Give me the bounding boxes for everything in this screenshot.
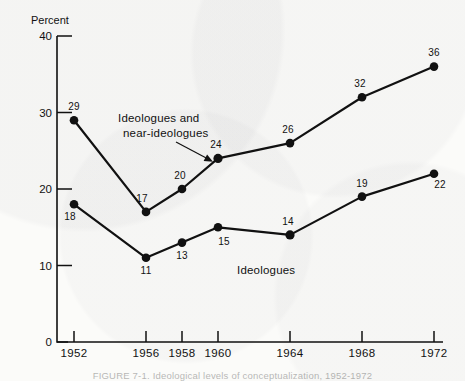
point-label: 32 [354,78,366,89]
point-label: 14 [282,216,294,227]
data-point [358,192,367,201]
point-label: 24 [210,139,222,150]
y-tick-label: 40 [39,30,52,42]
data-point [178,238,187,247]
point-label: 29 [68,101,80,112]
x-tick-label: 1952 [60,347,87,359]
data-point [178,185,187,194]
figure-caption: FIGURE 7-1. Ideological levels of concep… [0,370,465,381]
data-point [358,93,367,102]
y-tick-label: 30 [39,107,52,119]
x-axis-tick-labels: 1952 1956 1958 1960 1964 1968 1972 [60,347,447,359]
series-point-labels-ideologues: 18 11 13 15 14 19 22 [64,178,446,276]
annotation-label-near-ideologues-line1: Ideologues and [118,112,199,124]
data-point [285,230,294,239]
point-label: 11 [141,265,152,276]
x-tick-label: 1968 [348,347,375,359]
data-point [213,154,222,163]
y-axis-ticks [57,36,72,342]
series-points-ideologues-and-near-ideologues [70,62,439,216]
data-point [70,116,79,125]
annotation-label-near-ideologues-line2: near-ideologues [123,127,209,139]
data-point [214,223,223,232]
series-line-ideologues [74,174,434,258]
series-point-labels-ideologues-and-near-ideologues: 29 17 20 24 26 32 36 [68,47,440,204]
data-point [142,208,151,217]
x-tick-label: 1956 [132,347,159,359]
point-label: 17 [136,193,148,204]
y-tick-label: 20 [39,183,52,195]
data-point [286,139,295,148]
y-axis-tick-labels: 0 10 20 30 40 [39,30,52,348]
point-label: 26 [282,124,294,135]
y-tick-label: 0 [46,336,52,348]
point-label: 18 [64,211,76,222]
annotation-label-ideologues: Ideologues [237,264,295,276]
line-chart: 0 10 20 30 40 Percent 1952 1956 1958 196… [0,0,465,381]
series-points-ideologues [70,169,439,262]
figure-panel: 0 10 20 30 40 Percent 1952 1956 1958 196… [0,0,465,381]
data-point [142,253,151,262]
point-label: 13 [176,250,188,261]
point-label: 19 [356,178,368,189]
x-tick-label: 1972 [420,347,447,359]
point-label: 22 [434,179,446,190]
y-tick-label: 10 [39,260,52,272]
point-label: 36 [428,47,440,58]
annotation-arrow-icon [176,142,213,162]
point-label: 15 [218,236,230,247]
data-point [430,169,439,178]
x-axis-ticks [74,331,434,342]
y-axis-title: Percent [31,14,69,26]
data-point [430,62,439,71]
x-tick-label: 1960 [204,347,231,359]
data-point [70,200,79,209]
x-tick-label: 1958 [168,347,195,359]
point-label: 20 [174,170,186,181]
x-tick-label: 1964 [276,347,303,359]
